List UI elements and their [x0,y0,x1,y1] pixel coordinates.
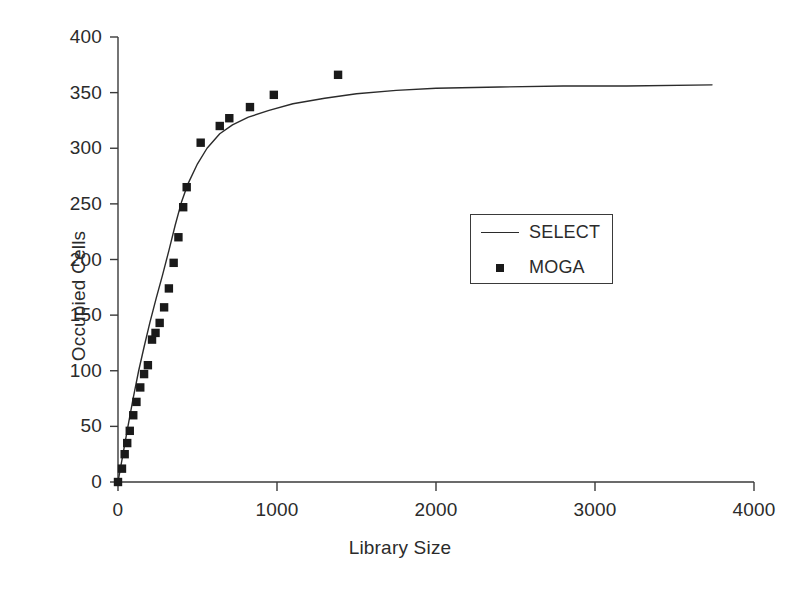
legend-label-moga: MOGA [529,257,585,278]
data-point-marker [144,361,152,369]
data-point-marker [216,122,224,130]
y-axis-tick-label: 50 [40,415,102,437]
x-axis-tick-label: 3000 [573,499,616,521]
square-marker-icon [471,264,529,272]
data-point-marker [123,439,131,447]
y-axis-title: Occupied Cells [68,230,90,361]
data-point-marker [129,411,137,419]
data-point-marker [160,303,168,311]
data-point-marker [140,370,148,378]
x-axis-tick-label: 0 [113,499,124,521]
data-point-marker [114,478,122,486]
data-point-marker [151,329,159,337]
y-axis-tick-label: 0 [40,471,102,493]
y-axis-tick-label: 250 [40,193,102,215]
axis-layer [110,37,754,491]
series-line-select [118,85,712,482]
data-point-marker [225,114,233,122]
y-axis-tick-label: 100 [40,360,102,382]
data-point-marker [270,91,278,99]
data-point-marker [136,383,144,391]
chart-legend: SELECT MOGA [470,214,613,284]
chart-figure: 050100150200250300350400 010002000300040… [0,0,800,591]
x-axis-tick-label: 1000 [255,499,298,521]
data-point-marker [334,71,342,79]
data-point-marker [179,203,187,211]
data-point-marker [155,319,163,327]
data-point-marker [118,464,126,472]
line-key-icon [471,232,529,233]
data-point-marker [120,450,128,458]
y-axis-tick-label: 300 [40,137,102,159]
series-layer [114,71,712,487]
data-point-marker [246,103,254,111]
x-axis-tick-label: 2000 [414,499,457,521]
legend-item-select: SELECT [471,215,612,250]
x-axis-title: Library Size [0,537,800,559]
y-axis-tick-label: 350 [40,82,102,104]
data-point-marker [182,183,190,191]
legend-label-select: SELECT [529,222,600,243]
data-point-marker [196,138,204,146]
data-point-marker [165,284,173,292]
data-point-marker [132,398,140,406]
y-axis-tick-label: 400 [40,26,102,48]
x-axis-tick-label: 4000 [732,499,775,521]
data-point-marker [126,427,134,435]
legend-item-moga: MOGA [471,250,612,285]
series-markers-moga [114,71,342,487]
data-point-marker [169,259,177,267]
data-point-marker [174,233,182,241]
